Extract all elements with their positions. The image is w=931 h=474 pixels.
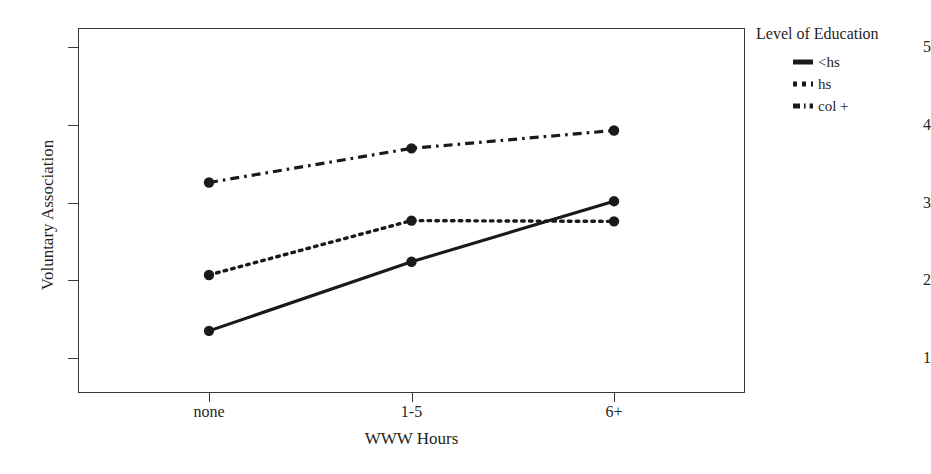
y-tick-mark bbox=[68, 47, 78, 48]
x-tick-mark bbox=[209, 393, 210, 402]
legend-item-label: <hs bbox=[818, 55, 840, 70]
legend-item-label: hs bbox=[818, 77, 831, 92]
legend-item-label: col + bbox=[818, 99, 849, 114]
legend-items: <hshscol + bbox=[756, 51, 928, 117]
y-axis-title: Voluntary Association bbox=[38, 100, 58, 330]
legend-line-swatch-3-icon bbox=[792, 100, 814, 112]
chart-figure: 54321 none1-56+ WWW Hours Voluntary Asso… bbox=[0, 0, 931, 474]
legend-line-swatch-1-icon bbox=[792, 56, 814, 68]
legend-item: col + bbox=[792, 95, 928, 117]
y-tick-mark bbox=[68, 280, 78, 281]
y-tick-label: 4 bbox=[897, 117, 931, 133]
legend-item: <hs bbox=[792, 51, 928, 73]
plot-area bbox=[78, 28, 745, 393]
y-tick-label: 3 bbox=[897, 195, 931, 211]
x-tick-label: 6+ bbox=[569, 403, 659, 421]
legend-line-swatch-2-icon bbox=[792, 78, 814, 90]
legend-item: hs bbox=[792, 73, 928, 95]
x-axis-title: WWW Hours bbox=[78, 429, 745, 449]
y-tick-mark bbox=[68, 358, 78, 359]
legend-title: Level of Education bbox=[756, 24, 928, 44]
x-tick-label: none bbox=[164, 403, 254, 421]
x-tick-label: 1-5 bbox=[367, 403, 457, 421]
y-tick-mark bbox=[68, 125, 78, 126]
y-tick-label: 2 bbox=[897, 272, 931, 288]
x-tick-mark bbox=[412, 393, 413, 402]
y-tick-label: 1 bbox=[897, 350, 931, 366]
x-tick-mark bbox=[614, 393, 615, 402]
y-tick-mark bbox=[68, 203, 78, 204]
legend: Level of Education <hshscol + bbox=[756, 24, 928, 117]
